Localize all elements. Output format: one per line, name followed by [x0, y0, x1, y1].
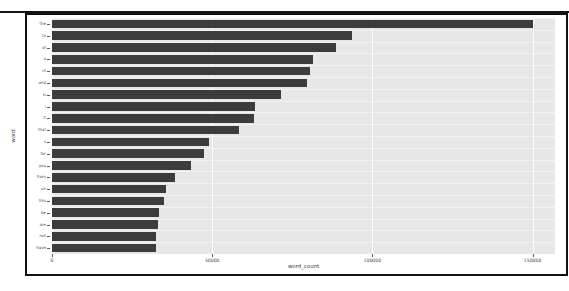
- bar-row: [52, 90, 555, 98]
- y-tick-mark: [47, 248, 50, 249]
- y-tick-mark: [47, 71, 50, 72]
- y-tick-mark: [47, 213, 50, 214]
- y-tick-label: it: [43, 116, 46, 120]
- y-tick-mark: [47, 36, 50, 37]
- figure-page: word thetoofainandisiitthatsforyoufromon…: [0, 0, 569, 291]
- y-tick-mark: [47, 118, 50, 119]
- y-tick-mark: [47, 130, 50, 131]
- bar: [52, 20, 533, 28]
- y-tick-label: you: [39, 164, 46, 168]
- y-axis-ticks: thetoofainandisiitthatsforyoufromonthisb…: [0, 18, 52, 254]
- y-tick-label: to: [42, 34, 46, 38]
- y-tick-label: this: [39, 199, 46, 203]
- bar: [52, 114, 254, 122]
- bar-row: [52, 161, 555, 169]
- y-tick-mark: [47, 189, 50, 190]
- x-tick-mark: [212, 254, 213, 257]
- bar-row: [52, 43, 555, 51]
- y-tick-label: from: [37, 175, 46, 179]
- y-tick-mark: [47, 154, 50, 155]
- y-tick-mark: [47, 24, 50, 25]
- y-tick-label: is: [43, 93, 46, 97]
- bar: [52, 197, 164, 205]
- bar: [52, 138, 209, 146]
- bar-row: [52, 55, 555, 63]
- y-tick-mark: [47, 142, 50, 143]
- bar-row: [52, 114, 555, 122]
- bar: [52, 173, 175, 181]
- y-tick-mark: [47, 166, 50, 167]
- y-tick-label: in: [42, 69, 46, 73]
- bar-row: [52, 173, 555, 181]
- plot-area: [52, 18, 555, 254]
- y-tick-label: a: [44, 57, 46, 61]
- bar: [52, 55, 313, 63]
- bar: [52, 102, 255, 110]
- bar: [52, 220, 158, 228]
- x-gridline: [212, 18, 213, 254]
- bar-row: [52, 244, 555, 252]
- bar-row: [52, 79, 555, 87]
- y-tick-mark: [47, 236, 50, 237]
- y-tick-mark: [47, 59, 50, 60]
- y-tick-label: that: [38, 128, 46, 132]
- chart-figure: word thetoofainandisiitthatsforyoufromon…: [0, 13, 569, 278]
- y-tick-mark: [47, 225, 50, 226]
- x-axis-title: word_count: [52, 263, 555, 269]
- bar: [52, 79, 307, 87]
- bar: [52, 126, 239, 134]
- y-tick-label: not: [39, 234, 46, 238]
- x-tick-mark: [52, 254, 53, 257]
- y-tick-mark: [47, 48, 50, 49]
- bar-row: [52, 185, 555, 193]
- x-gridline: [52, 18, 53, 254]
- bar-row: [52, 67, 555, 75]
- x-tick-mark: [372, 254, 373, 257]
- bar-row: [52, 232, 555, 240]
- y-tick-mark: [47, 83, 50, 84]
- y-tick-label: for: [41, 152, 47, 156]
- y-tick-mark: [47, 107, 50, 108]
- y-tick-label: have: [36, 246, 46, 250]
- bar: [52, 244, 156, 252]
- bar-row: [52, 149, 555, 157]
- bar: [52, 90, 281, 98]
- bar-row: [52, 126, 555, 134]
- y-tick-label: on: [41, 187, 46, 191]
- clipped-text-bleed: [0, 0, 569, 11]
- y-tick-label: are: [40, 223, 46, 227]
- x-tick-mark: [533, 254, 534, 257]
- bar: [52, 67, 310, 75]
- x-gridline: [372, 18, 373, 254]
- y-tick-mark: [47, 177, 50, 178]
- y-tick-label: be: [41, 211, 46, 215]
- y-tick-label: of: [42, 46, 46, 50]
- y-tick-label: and: [38, 81, 46, 85]
- bar: [52, 43, 336, 51]
- bar: [52, 31, 352, 39]
- y-tick-label: the: [39, 22, 46, 26]
- bar: [52, 161, 191, 169]
- bar: [52, 208, 159, 216]
- y-tick-mark: [47, 201, 50, 202]
- x-gridline: [533, 18, 534, 254]
- y-tick-label: i: [45, 105, 46, 109]
- bar: [52, 149, 204, 157]
- bar-row: [52, 208, 555, 216]
- bar-row: [52, 220, 555, 228]
- bar: [52, 185, 166, 193]
- bar-row: [52, 31, 555, 39]
- bar-row: [52, 102, 555, 110]
- y-tick-mark: [47, 95, 50, 96]
- bar: [52, 232, 156, 240]
- bar-row: [52, 138, 555, 146]
- y-tick-label: s: [44, 140, 46, 144]
- bar-row: [52, 197, 555, 205]
- bar-row: [52, 20, 555, 28]
